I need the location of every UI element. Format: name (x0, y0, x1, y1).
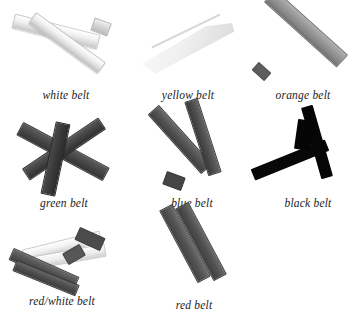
blue-belt-fold-joint (162, 171, 186, 191)
green-belt-illustration (4, 114, 124, 196)
belt-item-white-belt: white belt (6, 6, 126, 102)
white-belt-illustration (6, 6, 126, 88)
belt-item-yellow-belt: yellow belt (128, 6, 248, 102)
belt-caption-orange-belt: orange belt (243, 88, 363, 102)
belt-item-blue-belt: blue belt (132, 114, 252, 210)
belt-caption-black-belt: black belt (248, 196, 363, 210)
belt-caption-red-belt: red belt (134, 298, 254, 312)
black-belt-illustration (248, 114, 363, 196)
belt-caption-red-white-belt: red/white belt (2, 294, 122, 308)
belt-item-green-belt: green belt (4, 114, 124, 210)
belt-item-red-belt: red belt (134, 226, 254, 312)
yellow-belt-illustration (128, 6, 248, 88)
belt-item-red-white-belt: red/white belt (2, 222, 122, 308)
belt-item-orange-belt: orange belt (243, 6, 363, 102)
belt-item-black-belt: black belt (248, 114, 363, 210)
orange-belt-illustration (243, 6, 363, 88)
blue-belt-illustration (132, 114, 252, 196)
belt-caption-green-belt: green belt (4, 196, 124, 210)
red-belt-illustration (134, 226, 254, 298)
red-white-belt-illustration (2, 222, 122, 294)
orange-belt-bar (264, 0, 348, 68)
belt-caption-white-belt: white belt (6, 88, 126, 102)
belt-rank-figure: white belt yellow belt orange belt green… (0, 0, 363, 323)
orange-belt-end-cap (252, 62, 272, 82)
